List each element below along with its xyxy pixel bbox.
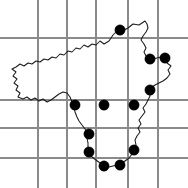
record-dot (160, 53, 170, 63)
record-dot (115, 160, 125, 170)
record-dot (145, 85, 155, 95)
map-background (0, 0, 188, 188)
record-dot (70, 100, 80, 110)
record-dot (129, 145, 139, 155)
record-dot (115, 25, 125, 35)
map-canvas (0, 0, 188, 188)
record-dot (99, 161, 109, 171)
record-dot (84, 129, 94, 139)
record-dot (84, 147, 94, 157)
record-dot (145, 54, 155, 64)
record-dot (99, 100, 109, 110)
distribution-map-figure (0, 0, 188, 188)
record-dot (129, 100, 139, 110)
